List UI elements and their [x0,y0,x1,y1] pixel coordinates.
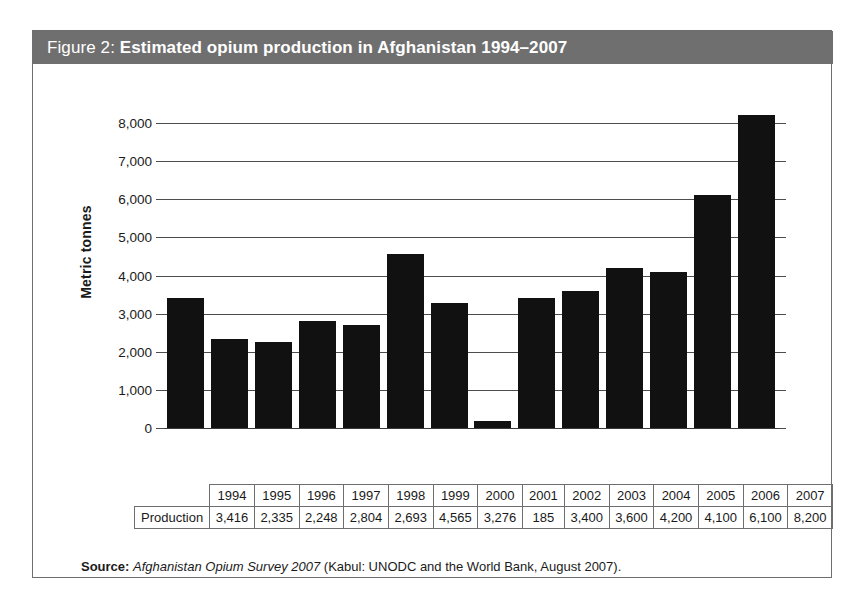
chart-region: Metric tonnes 8,0007,0006,0005,0004,0003… [33,64,833,579]
figure-container: Figure 2: Estimated opium production in … [32,30,832,578]
table-year-cell: 2001 [522,485,564,507]
table-value-cell: 3,400 [564,507,609,529]
y-axis-tick-right [778,237,786,238]
table-value-cell: 2,248 [299,507,344,529]
table-value-cell: 8,200 [788,507,833,529]
bar-1998 [343,325,380,428]
y-axis-tick-right [778,314,786,315]
y-axis-title: Metric tonnes [78,182,94,322]
y-axis-tick [156,352,164,353]
y-axis-tick [156,199,164,200]
bar-1999 [387,254,424,428]
figure-header-band: Figure 2: Estimated opium production in … [33,31,833,64]
table-year-cell: 1996 [299,485,344,507]
table-corner-cell [135,485,210,507]
table-value-cell: 2,335 [254,507,299,529]
y-axis-tick [156,237,164,238]
plot-area: 8,0007,0006,0005,0004,0003,0002,0001,000… [164,123,778,428]
y-axis-tick-right [778,352,786,353]
y-axis-tick-right [778,390,786,391]
gridline [164,199,778,200]
table-year-cell: 2004 [654,485,699,507]
bar-1996 [255,342,292,428]
table-value-cell: 3,276 [478,507,523,529]
y-axis-tick-label: 1,000 [118,382,152,397]
bar-2004 [606,268,643,428]
y-axis-tick-right [778,199,786,200]
y-axis-tick-right [778,123,786,124]
table-year-cell: 2002 [564,485,609,507]
bar-2006 [694,195,731,428]
bar-1997 [299,321,336,428]
bar-2005 [650,272,687,428]
table-year-cell: 1998 [388,485,433,507]
y-axis-tick-label: 4,000 [118,268,152,283]
table-year-cell: 1999 [433,485,478,507]
table-value-cell: 6,100 [743,507,788,529]
y-axis-tick-label: 3,000 [118,306,152,321]
bar-2007 [738,115,775,428]
gridline [164,123,778,124]
y-axis-tick [156,428,164,429]
y-axis-tick-label: 0 [144,421,152,436]
y-axis-tick [156,123,164,124]
table-value-cell: 4,200 [654,507,699,529]
y-axis-tick-label: 6,000 [118,192,152,207]
table-value-cell: 4,565 [433,507,478,529]
table-value-cell: 4,100 [698,507,743,529]
bar-2001 [474,421,511,428]
table-value-cell: 3,416 [210,507,255,529]
y-axis-tick-label: 8,000 [118,116,152,131]
figure-title: Estimated opium production in Afghanista… [120,38,568,58]
source-title: Afghanistan Opium Survey 2007 [133,559,320,574]
table-value-cell: 185 [522,507,564,529]
source-detail: (Kabul: UNODC and the World Bank, August… [320,559,621,574]
y-axis-tick-label: 5,000 [118,230,152,245]
table-year-cell: 1994 [210,485,255,507]
table-year-cell: 2006 [743,485,788,507]
table-year-cell: 1997 [344,485,389,507]
table-value-cell: 2,693 [388,507,433,529]
source-note: Source: Afghanistan Opium Survey 2007 (K… [81,559,621,574]
y-axis-tick-label: 2,000 [118,344,152,359]
y-axis-tick-right [778,428,786,429]
y-axis-tick [156,314,164,315]
y-axis-tick [156,276,164,277]
bar-2003 [562,291,599,428]
y-axis-tick-right [778,161,786,162]
y-axis-tick [156,161,164,162]
bar-1995 [211,339,248,428]
y-axis-tick-label: 7,000 [118,154,152,169]
bar-2000 [431,303,468,428]
table-row-production: Production 3,4162,3352,2482,8042,6934,56… [135,507,833,529]
figure-number-label: Figure 2: [47,38,120,58]
table-row-header: Production [135,507,210,529]
bar-2002 [518,298,555,428]
table-year-cell: 1995 [254,485,299,507]
table-year-cell: 2005 [698,485,743,507]
gridline [164,161,778,162]
y-axis-tick [156,390,164,391]
gridline [164,428,778,429]
y-axis-tick-right [778,276,786,277]
data-table: 1994199519961997199819992000200120022003… [134,484,833,529]
table-value-cell: 3,600 [609,507,654,529]
table-year-cell: 2000 [478,485,523,507]
gridline [164,237,778,238]
table-row-years: 1994199519961997199819992000200120022003… [135,485,833,507]
table-year-cell: 2007 [788,485,833,507]
bar-1994 [167,298,204,428]
table-value-cell: 2,804 [344,507,389,529]
source-label: Source: [81,559,133,574]
table-year-cell: 2003 [609,485,654,507]
